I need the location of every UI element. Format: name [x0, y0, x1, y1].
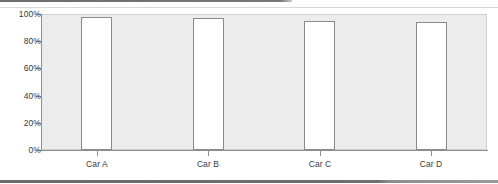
top-hairline [0, 7, 498, 8]
y-axis-line [41, 14, 42, 151]
top-edge-rule [0, 0, 292, 2]
x-axis-tick-label: Car B [197, 159, 219, 169]
y-axis-tick-label: 20% [8, 118, 41, 128]
x-axis-tick-mark [97, 151, 98, 156]
x-axis-tick-mark [320, 151, 321, 156]
x-axis-tick-label: Car A [86, 159, 108, 169]
x-axis-line [41, 150, 488, 151]
bar [416, 22, 447, 150]
bar [304, 21, 335, 150]
x-axis-tick-mark [431, 151, 432, 156]
bottom-edge-rule [0, 180, 498, 183]
x-axis-tick-mark [208, 151, 209, 156]
x-axis-tick-label: Car D [420, 159, 443, 169]
y-axis-tick-label: 100% [8, 9, 41, 19]
y-axis-tick-label: 40% [8, 91, 41, 101]
x-axis-tick-label: Car C [309, 159, 332, 169]
bar [81, 17, 112, 150]
y-axis-tick-label: 0% [8, 145, 41, 155]
bar [193, 18, 224, 150]
bar-chart-figure: 0%20%40%60%80%100% Car ACar BCar CCar D [0, 0, 498, 184]
y-axis-tick-label: 80% [8, 36, 41, 46]
y-axis-tick-label: 60% [8, 63, 41, 73]
